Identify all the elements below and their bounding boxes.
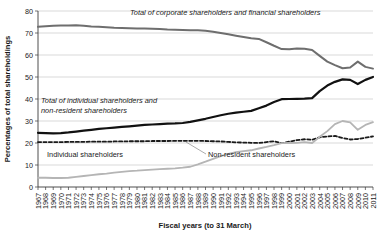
chart-container: 01020304050607080 1967196819691970197119… (0, 0, 383, 232)
y-axis-tick-label: 40 (25, 95, 33, 104)
x-axis-title: Fiscal years (to 31 March) (159, 221, 252, 230)
annotation-individual-nonresident-line1: Total of individual shareholders and (41, 96, 158, 105)
annotation-non-resident-shareholders: Non-resident shareholders (208, 150, 295, 159)
y-axis-tick-label: 30 (25, 117, 33, 126)
y-axis-title: Percentages of total shareholdings (3, 36, 12, 163)
series-line-0 (38, 25, 373, 68)
annotation-individual-shareholders: Individual shareholders (47, 150, 123, 159)
annotation-corporate-series: Total of corporate shareholders and fina… (130, 8, 321, 17)
x-axis-tick-label: 2011 (369, 193, 378, 208)
annotation-individual-nonresident-line2: non-resident shareholders (41, 106, 127, 115)
shareholding-line-chart: 01020304050607080 1967196819691970197119… (0, 0, 383, 232)
y-axis-tick-label: 20 (25, 139, 33, 148)
y-axis-tick-labels-group: 01020304050607080 (25, 7, 33, 192)
y-axis-tick-label: 0 (29, 183, 33, 192)
y-axis-tick-label: 70 (25, 29, 33, 38)
x-axis-tick-labels-group: 1967196819691970197119721973197419751976… (34, 193, 378, 209)
y-axis-tick-label: 80 (25, 7, 33, 16)
leader-line-non-resident (186, 142, 206, 154)
y-axis-tick-label: 10 (25, 161, 33, 170)
y-axis-tick-label: 60 (25, 51, 33, 60)
y-axis-tick-label: 50 (25, 73, 33, 82)
series-line-2 (38, 136, 373, 143)
